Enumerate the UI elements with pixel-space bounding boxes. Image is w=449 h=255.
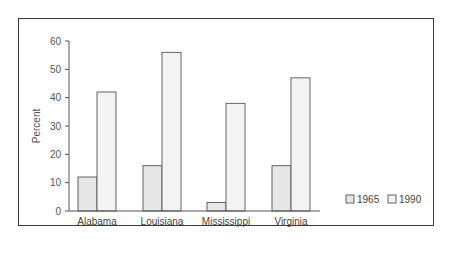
x-axis: AlabamaLouisianaMississippiVirginia (69, 211, 320, 227)
y-tick-label: 60 (50, 36, 62, 47)
x-category-label: Mississippi (202, 216, 250, 227)
y-axis: 0102030405060 (50, 36, 69, 217)
y-axis-title: Percent (31, 109, 42, 144)
legend-swatch-1990 (388, 195, 396, 203)
legend: 19651990 (346, 194, 422, 205)
x-category-label: Louisiana (141, 216, 184, 227)
bar-louisiana-1965 (143, 166, 162, 211)
legend-swatch-1965 (346, 195, 354, 203)
y-tick-label: 10 (50, 177, 62, 188)
y-tick-label: 0 (55, 206, 61, 217)
bar-virginia-1990 (291, 78, 310, 211)
bar-louisiana-1990 (162, 52, 181, 211)
x-category-label: Virginia (274, 216, 308, 227)
bar-alabama-1990 (97, 92, 116, 211)
legend-label-1965: 1965 (357, 194, 380, 205)
bar-alabama-1965 (78, 177, 97, 211)
y-tick-label: 20 (50, 149, 62, 160)
bar-mississippi-1990 (226, 103, 245, 211)
bar-virginia-1965 (272, 166, 291, 211)
y-tick-label: 40 (50, 92, 62, 103)
legend-label-1990: 1990 (399, 194, 422, 205)
y-tick-label: 50 (50, 64, 62, 75)
bars (78, 52, 310, 211)
bar-chart: Percent 0102030405060 AlabamaLouisianaMi… (0, 0, 449, 255)
bar-mississippi-1965 (207, 203, 226, 212)
y-tick-label: 30 (50, 121, 62, 132)
x-category-label: Alabama (77, 216, 117, 227)
